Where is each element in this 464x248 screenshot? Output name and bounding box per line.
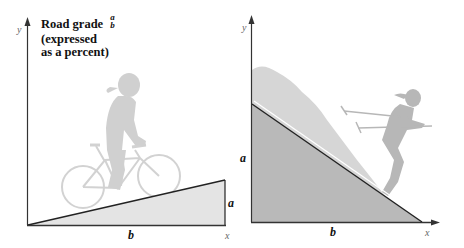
road-grade-title: Road grade a b (expressed as a percent) <box>41 17 115 59</box>
grade-fraction: a b <box>110 13 115 29</box>
skier-icon <box>382 89 425 196</box>
title-line-1: Road grade <box>41 17 103 31</box>
x-axis-label: x <box>225 230 229 241</box>
rider-figure <box>106 73 146 190</box>
side-b-label: b <box>128 228 134 243</box>
y-axis-arrow-icon <box>25 17 31 26</box>
x-axis-arrow-icon <box>431 220 440 226</box>
ski-slope-graphic <box>232 0 464 248</box>
road-grade-diagram: y x Road grade a b (expressed as a perce… <box>0 0 232 248</box>
y-axis-label: y <box>17 24 21 35</box>
ski-slope-diagram: y x a b <box>232 0 464 248</box>
fraction-denominator: b <box>110 21 115 29</box>
side-b-label: b <box>330 225 336 240</box>
x-axis-label: x <box>425 227 429 238</box>
title-line-3: as a percent) <box>41 46 115 59</box>
y-axis-label: y <box>242 22 246 33</box>
y-axis-arrow-icon <box>249 15 255 24</box>
side-a-label: a <box>240 151 246 166</box>
road-grade-graphic <box>0 0 232 248</box>
